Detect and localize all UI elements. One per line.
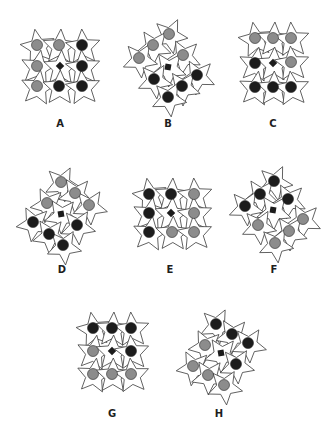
gray-circle-icon [88,369,99,380]
gray-circle-icon [70,188,81,199]
gray-circle-icon [32,61,43,72]
gray-circle-icon [188,361,199,372]
black-circle-icon [227,329,238,340]
gray-circle-icon [88,346,99,357]
gray-circle-icon [134,53,145,64]
gray-circle-icon [253,220,264,231]
black-circle-icon [166,189,177,200]
black-circle-icon [54,81,65,92]
center-square-icon [270,207,277,214]
gray-circle-icon [250,33,261,44]
gray-circle-icon [270,238,281,249]
figure-canvas: ABCDEFGH [0,0,335,441]
gray-circle-icon [167,227,178,238]
gray-circle-icon [32,81,43,92]
gray-circle-icon [268,33,279,44]
center-square-icon [58,211,65,218]
figure-f: F [229,167,320,275]
black-circle-icon [163,92,174,103]
center-square-icon [218,350,225,357]
black-circle-icon [77,81,88,92]
figures-group: ABCDEFGH [16,20,320,419]
gray-circle-icon [286,57,297,68]
figure-label: G [108,408,116,419]
black-circle-icon [211,319,222,330]
gray-circle-icon [32,40,43,51]
figure-d: D [16,168,107,275]
gray-circle-icon [164,29,175,40]
gray-circle-icon [298,214,309,225]
black-circle-icon [28,217,39,228]
black-circle-icon [231,359,242,370]
black-circle-icon [149,74,160,85]
gray-circle-icon [126,369,137,380]
figure-label: C [269,118,276,129]
black-circle-icon [107,323,118,334]
black-circle-icon [243,338,254,349]
black-circle-icon [286,82,297,93]
figure-c: C [238,22,309,129]
figure-label: B [164,118,172,129]
black-circle-icon [177,81,188,92]
black-circle-icon [192,70,203,81]
black-circle-icon [72,220,83,231]
center-square-icon [165,64,172,71]
figure-label: E [167,264,174,275]
gray-circle-icon [203,370,214,381]
black-circle-icon [44,229,55,240]
black-circle-icon [126,323,137,334]
gray-circle-icon [56,177,67,188]
gray-circle-icon [54,40,65,51]
gray-circle-icon [107,369,118,380]
figure-label: A [56,118,64,129]
black-circle-icon [88,323,99,334]
figure-e: E [132,178,212,275]
black-circle-icon [250,58,261,69]
figure-label: F [271,264,278,275]
black-circle-icon [58,240,69,251]
black-circle-icon [144,189,155,200]
black-circle-icon [144,227,155,238]
black-circle-icon [255,189,266,200]
figure-h: H [176,310,266,419]
gray-circle-icon [284,226,295,237]
gray-circle-icon [178,50,189,61]
gray-circle-icon [200,340,211,351]
black-circle-icon [283,194,294,205]
black-circle-icon [77,40,88,51]
gray-circle-icon [286,33,297,44]
figure-a: A [20,29,100,129]
gray-circle-icon [148,40,159,51]
gray-circle-icon [219,380,230,391]
black-circle-icon [268,82,279,93]
black-circle-icon [144,208,155,219]
black-circle-icon [77,61,88,72]
gray-circle-icon [189,208,200,219]
black-circle-icon [250,82,261,93]
gray-circle-icon [189,189,200,200]
figure-label: H [215,408,223,419]
gray-circle-icon [84,200,95,211]
figure-b: B [123,20,214,129]
figure-g: G [76,312,149,419]
gray-circle-icon [42,198,53,209]
figure-label: D [58,264,66,275]
gray-circle-icon [189,227,200,238]
black-circle-icon [240,201,251,212]
black-circle-icon [126,346,137,357]
black-circle-icon [269,176,280,187]
